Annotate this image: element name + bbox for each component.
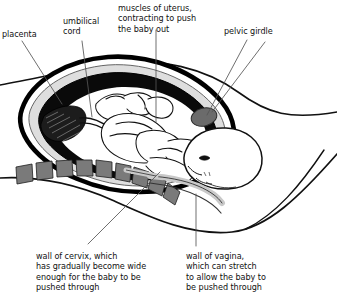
label-vagina-wall: wall of vagina, which can stretch to all… (186, 251, 266, 292)
label-umbilical-cord: umbilical cord (63, 16, 99, 37)
label-cervix-wall: wall of cervix, which has gradually beco… (36, 251, 146, 292)
label-uterine-muscles: muscles of uterus, contracting to push t… (118, 3, 196, 34)
label-placenta: placenta (2, 29, 37, 39)
fetal-head (184, 128, 262, 189)
childbirth-diagram: placenta umbilical cord muscles of uteru… (0, 0, 337, 299)
leader-pelvic-b (212, 42, 265, 112)
label-pelvic-girdle: pelvic girdle (224, 26, 273, 36)
